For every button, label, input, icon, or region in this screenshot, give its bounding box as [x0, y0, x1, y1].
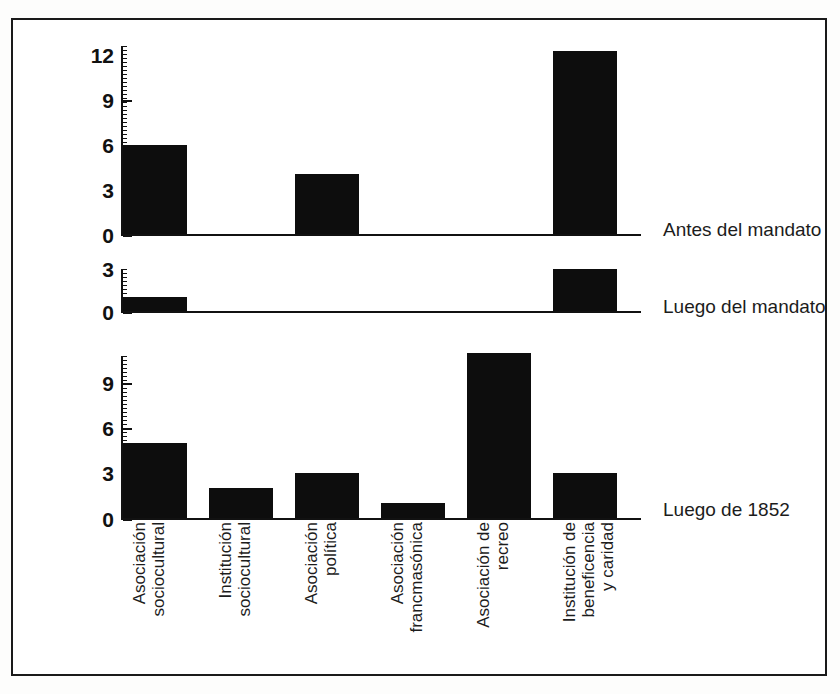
category-label-asociacion-politica: Asociación política — [302, 522, 340, 642]
category-label-institucion-de-beneficencia: Institución de beneficencia y caridad — [560, 522, 617, 642]
category-label-asociacion-sociocultural: Asociación sociocultural — [130, 522, 168, 642]
category-label-institucion-sociocultural: Institución sociocultural — [216, 522, 254, 642]
category-label-asociacion-francmasonica: Asociación francmasónica — [388, 522, 426, 642]
figure-canvas: 0 3 6 9 12 Antes del mandato — [0, 0, 840, 694]
category-label-asociacion-de-recreo: Asociación de recreo — [474, 522, 512, 642]
category-axis-labels: Asociación sociocultural Institución soc… — [0, 0, 840, 694]
